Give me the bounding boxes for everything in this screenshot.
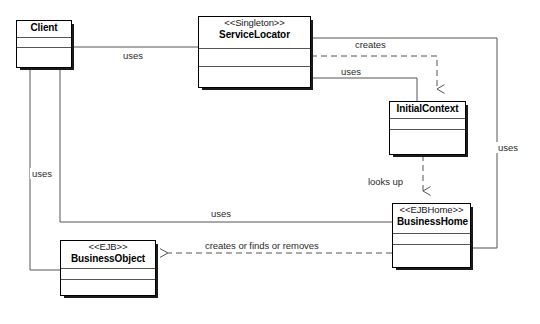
class-stereotype-label: <<EJB>>	[65, 242, 151, 253]
edge-label-servicelocator-uses-businesshome: uses	[496, 142, 520, 153]
uml-class-servicelocator[interactable]: <<Singleton>> ServiceLocator	[198, 16, 311, 88]
uml-class-initialcontext[interactable]: InitialContext	[389, 101, 466, 155]
uml-class-businesshome[interactable]: <<EJBHome>> BusinessHome	[392, 203, 471, 268]
class-name-label: ServiceLocator	[203, 29, 306, 40]
class-name-compartment: <<EJB>> BusinessObject	[61, 241, 155, 269]
class-operations-compartment	[17, 48, 71, 67]
edge-client-uses-businesshome	[60, 68, 392, 222]
class-attributes-compartment	[199, 49, 310, 67]
edge-label-client-uses-servicelocator: uses	[121, 50, 145, 61]
uml-class-client[interactable]: Client	[16, 20, 72, 68]
class-stereotype-label: <<EJBHome>>	[397, 205, 466, 216]
edge-label-client-uses-businessobject: uses	[30, 168, 54, 179]
class-operations-compartment	[199, 67, 310, 87]
class-stereotype-label: <<Singleton>>	[203, 18, 306, 29]
edge-servicelocator-creates-initialcontext	[311, 56, 437, 89]
class-operations-compartment	[61, 280, 155, 295]
edge-servicelocator-uses-initialcontext	[311, 78, 417, 101]
class-attributes-compartment	[17, 38, 71, 48]
edge-label-businesshome-creates-businessobject: creates or finds or removes	[203, 240, 321, 251]
class-name-compartment: InitialContext	[390, 102, 465, 119]
class-name-label: Client	[21, 22, 67, 33]
edge-label-servicelocator-creates-initialcontext: creates	[353, 39, 388, 50]
class-name-label: BusinessObject	[65, 253, 151, 264]
class-operations-compartment	[393, 245, 470, 267]
class-operations-compartment	[390, 130, 465, 154]
uml-class-businessobject[interactable]: <<EJB>> BusinessObject	[60, 240, 156, 296]
class-name-label: InitialContext	[394, 103, 461, 114]
class-attributes-compartment	[393, 234, 470, 245]
class-name-label: BusinessHome	[397, 216, 466, 227]
edge-label-client-uses-businesshome: uses	[209, 208, 233, 219]
class-name-compartment: <<Singleton>> ServiceLocator	[199, 17, 310, 49]
edge-label-servicelocator-uses-initialcontext: uses	[339, 66, 363, 77]
edge-label-initialcontext-looksup-businesshome: looks up	[366, 176, 405, 187]
uml-class-diagram: Client <<Singleton>> ServiceLocator Init…	[0, 0, 540, 324]
class-name-compartment: Client	[17, 21, 71, 38]
class-attributes-compartment	[390, 119, 465, 130]
class-attributes-compartment	[61, 269, 155, 280]
class-name-compartment: <<EJBHome>> BusinessHome	[393, 204, 470, 234]
